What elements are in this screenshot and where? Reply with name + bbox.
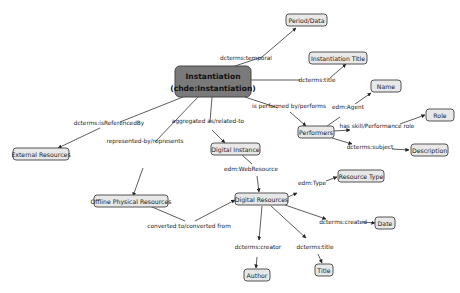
node-offline-physical-resources[interactable]: Offline Physical Resources (90, 195, 171, 207)
edge-label-title-dr: dcterms:title (297, 244, 334, 250)
edge-arrow (212, 130, 225, 143)
node-instantiation-line1: Instantiation (185, 72, 240, 81)
node-label: Digital Resources (235, 196, 289, 204)
node-label: Resource Type (339, 173, 384, 181)
edge-label-created: dcterms:created (319, 219, 367, 225)
edge-arrow (58, 128, 100, 148)
concept-map: dcterms:temporal dcterms:title dcterms:i… (0, 0, 460, 293)
edge-arrow (288, 193, 297, 197)
edge-arrow (392, 149, 409, 150)
edge-label-title: dcterms:title (299, 77, 336, 83)
node-performers[interactable]: Performers (298, 126, 334, 138)
edge-arrow (195, 200, 235, 221)
node-label: Description (412, 147, 447, 155)
node-digital-resources[interactable]: Digital Resources (235, 193, 289, 205)
node-external-resources[interactable]: External Resources (11, 148, 70, 160)
edge-label-creator: dcterms:creator (235, 244, 282, 250)
node-instantiation[interactable]: Instantiation (chde:Instantiation) (170, 66, 256, 97)
node-resource-type[interactable]: Resource Type (338, 170, 384, 182)
node-date[interactable]: Date (375, 217, 395, 229)
node-role[interactable]: Role (426, 109, 454, 121)
node-label: Name (377, 83, 395, 90)
node-label: External Resources (11, 151, 70, 158)
edge-label-subject: dcterms:subject (347, 144, 394, 151)
edge-arrow (318, 254, 322, 263)
edge-label-temporal: dcterms:temporal (220, 55, 272, 62)
edge-arrow (285, 205, 326, 219)
edge-label-web-resource: edm:WebResource (224, 166, 279, 172)
edge-label-edm-agent: edm:Agent (332, 104, 365, 111)
node-instantiation-line2: (chde:Instantiation) (170, 84, 256, 93)
node-digital-instance[interactable]: Digital Instance (211, 143, 260, 155)
node-label: Digital Instance (211, 146, 260, 154)
edge-label-aggregated: aggregated as/related-to (172, 118, 245, 125)
node-label: Offline Physical Resources (90, 198, 171, 206)
edge-line (327, 117, 340, 126)
node-label: Period/Data (288, 17, 324, 24)
edge-label-has-skill: has skill/Performance role (340, 123, 415, 129)
edge-arrow (326, 177, 337, 181)
node-label: Role (433, 112, 447, 119)
edge-label-edm-type: edm:Type (298, 180, 327, 187)
node-period-date[interactable]: Period/Data (286, 14, 327, 26)
edge-arrow (290, 112, 306, 126)
edge-arrow (262, 28, 296, 57)
edge-label-is-referenced-by: dcterms:isReferencedBy (74, 120, 145, 127)
edge-arrow (330, 64, 346, 78)
node-author[interactable]: Author (244, 269, 270, 281)
node-label: Title (316, 267, 330, 274)
node-description[interactable]: Description (411, 144, 448, 156)
node-instantiation-title[interactable]: Instantiation Title (309, 52, 367, 64)
edge-arrow (257, 176, 259, 192)
node-label: Performers (299, 129, 333, 136)
node-label: Date (378, 220, 393, 227)
edge-label-converted: converted to/converted from (147, 223, 231, 229)
edge-arrow (259, 206, 262, 240)
node-label: Author (247, 272, 268, 279)
node-name[interactable]: Name (371, 80, 401, 92)
node-label: Instantiation Title (311, 55, 365, 62)
edge-arrow (355, 93, 371, 104)
node-title[interactable]: Title (315, 264, 333, 276)
edge-line (242, 155, 252, 164)
edge-arrow (133, 168, 143, 196)
edge-label-performed-by: is performed by/performs (252, 103, 326, 110)
edge-arrow (334, 130, 350, 131)
edge-label-represented-by: represented-by/represents (106, 138, 183, 145)
edge-arrow (256, 257, 257, 268)
